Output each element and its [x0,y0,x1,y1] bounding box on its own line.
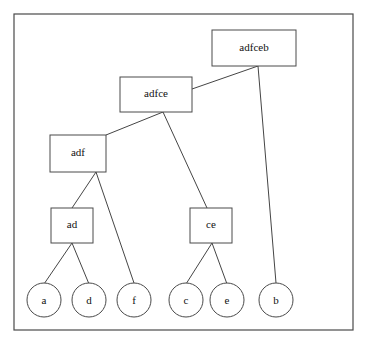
cluster-node-adf[interactable]: adf [50,135,106,172]
cluster-node-ce[interactable]: ce [190,208,232,243]
leaf-node-e[interactable]: e [210,283,244,317]
cluster-node-adfce[interactable]: adfce [120,77,192,112]
hierarchical-cluster-tree-diagram: adfcebadfceadfadce adfceb [0,0,367,345]
cluster-node-label-adfceb: adfceb [239,41,269,53]
leaf-node-label-d: d [86,294,92,306]
leaf-node-b[interactable]: b [259,283,293,317]
cluster-node-ad[interactable]: ad [51,208,93,243]
leaf-node-label-b: b [273,294,279,306]
cluster-node-label-ad: ad [67,218,78,230]
leaf-node-label-f: f [132,294,136,306]
leaf-node-c[interactable]: c [169,283,203,317]
leaf-node-f[interactable]: f [117,283,151,317]
cluster-node-adfceb[interactable]: adfceb [212,30,296,66]
leaf-node-a[interactable]: a [27,283,61,317]
cluster-node-label-adfce: adfce [144,87,168,99]
cluster-node-label-adf: adf [71,146,85,158]
diagram-canvas: adfcebadfceadfadce adfceb [0,0,367,345]
leaf-node-label-a: a [42,294,47,306]
cluster-node-label-ce: ce [206,218,216,230]
leaf-node-label-e: e [225,294,230,306]
leaf-node-d[interactable]: d [72,283,106,317]
leaf-node-label-c: c [184,294,189,306]
